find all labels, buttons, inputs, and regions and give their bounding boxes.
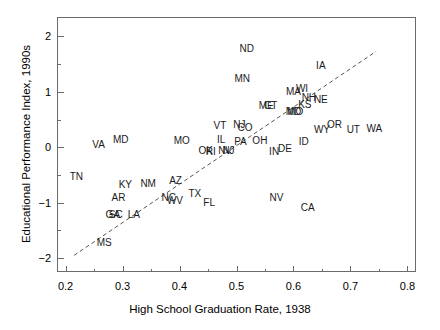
data-point-label: OH [252,136,267,146]
data-point-label: DE [278,144,292,154]
data-point-label: MO [174,136,190,146]
data-point-label: MN [234,74,250,84]
x-tick-minor [322,269,323,272]
data-point-label: FL [203,198,215,208]
y-tick-major [58,258,64,259]
x-tick-label: 0.3 [115,280,130,292]
data-point-label: RI [206,147,216,157]
data-point-label: CO [238,123,253,133]
x-tick-minor [94,269,95,272]
x-tick-label: 0.8 [400,280,415,292]
data-point-label: CA [301,203,315,213]
x-tick-label: 0.2 [58,280,73,292]
data-point-label: MS [97,238,112,248]
data-point-label: NJ [222,146,234,156]
x-tick-major [407,266,408,272]
y-tick-major [58,203,64,204]
x-axis-label: High School Graduation Rate, 1938 [0,303,440,315]
x-tick-label: 0.4 [172,280,187,292]
data-point-label: KY [119,180,132,190]
data-point-label: ID [299,137,309,147]
data-point-label: TN [70,172,83,182]
data-point-label: IA [316,61,325,71]
y-tick-minor [58,230,61,231]
data-point-label: NM [140,179,156,189]
x-tick-label: 0.6 [286,280,301,292]
y-tick-minor [58,175,61,176]
data-point-label: UT [347,125,360,135]
data-point-label: AR [112,193,126,203]
x-tick-label: 0.7 [343,280,358,292]
data-point-label: MD [113,135,129,145]
x-tick-minor [208,269,209,272]
x-tick-label: 0.5 [229,280,244,292]
y-tick-major [58,147,64,148]
y-tick-minor [58,64,61,65]
data-point-label: LA [128,210,140,220]
data-point-label: NV [269,193,283,203]
y-axis-label: Educational Performance Index, 1990s [20,14,32,274]
x-tick-major [180,266,181,272]
data-point-label: WV [167,196,183,206]
data-point-label: WY [314,125,330,135]
data-point-label: VT [214,121,227,131]
x-tick-major [66,266,67,272]
data-point-label: IL [217,135,225,145]
y-tick-major [58,92,64,93]
x-tick-major [123,266,124,272]
x-tick-minor [151,269,152,272]
x-tick-minor [265,269,266,272]
x-tick-minor [379,269,380,272]
y-tick-major [58,36,64,37]
data-point-label: PA [234,137,247,147]
data-point-label: TX [189,189,202,199]
data-point-label: ND [240,44,254,54]
x-tick-major [293,266,294,272]
data-point-label: WA [367,124,383,134]
y-tick-minor [58,120,61,121]
x-tick-major [350,266,351,272]
data-point-label: SC [109,210,123,220]
data-point-label: VA [92,140,105,150]
data-point-label: NE [314,95,328,105]
data-point-label: MO [287,107,303,117]
x-tick-major [237,266,238,272]
scatter-plot-figure: 0.20.30.40.50.60.70.8−2−1012 NDIAMNMAWIN… [0,0,440,330]
data-point-label: CT [264,101,277,111]
data-point-label: AZ [169,176,182,186]
